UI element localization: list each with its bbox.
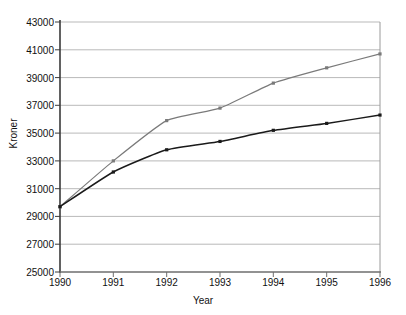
- data-point-marker: [378, 113, 381, 116]
- series-upper-series: [58, 52, 381, 208]
- x-tick-label: 1993: [209, 277, 231, 288]
- chart-plot-svg: [0, 0, 406, 315]
- data-point-marker: [325, 122, 328, 125]
- data-point-marker: [112, 159, 115, 162]
- data-point-marker: [378, 52, 381, 55]
- x-tick-label: 1995: [316, 277, 338, 288]
- series-line: [60, 54, 380, 207]
- data-series-layer: [58, 52, 381, 208]
- data-point-marker: [165, 148, 168, 151]
- gridlines: [60, 22, 380, 244]
- data-point-marker: [165, 119, 168, 122]
- data-point-marker: [58, 205, 61, 208]
- x-axis-title: Year: [0, 295, 406, 306]
- data-point-marker: [272, 129, 275, 132]
- x-tick-label: 1992: [156, 277, 178, 288]
- x-tick-label: 1990: [49, 277, 71, 288]
- x-tick-label: 1996: [369, 277, 391, 288]
- data-point-marker: [112, 170, 115, 173]
- x-tick-label: 1994: [262, 277, 284, 288]
- data-point-marker: [218, 107, 221, 110]
- data-point-marker: [272, 82, 275, 85]
- chart-container: Kroner 25000 27000 29000 31000 33000 350…: [0, 0, 406, 315]
- data-point-marker: [325, 66, 328, 69]
- data-point-marker: [218, 140, 221, 143]
- x-tick-label: 1991: [102, 277, 124, 288]
